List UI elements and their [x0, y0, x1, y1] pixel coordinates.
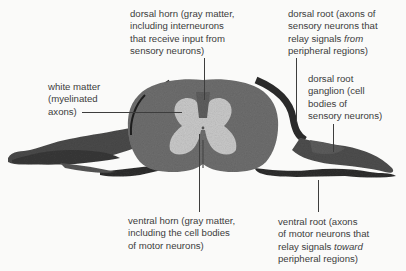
label-line: including interneurons — [130, 20, 235, 32]
leader-ventral-root — [318, 180, 319, 212]
right-nerve — [255, 138, 396, 178]
label-line: of motor neurons that — [278, 228, 369, 240]
label-line: ganglion (cell — [308, 85, 382, 97]
label-line: bodies of — [308, 98, 382, 110]
leader-dorsal-root — [296, 58, 297, 122]
label-line: ventral horn (gray matter, — [128, 215, 235, 227]
label-line: including the cell bodies — [128, 227, 235, 239]
label-ventral-root: ventral root (axons of motor neurons tha… — [278, 216, 369, 266]
leader-white-matter — [82, 112, 182, 113]
label-line: of motor neurons) — [128, 240, 235, 252]
label-line: peripheral regions) — [278, 253, 369, 265]
label-emphasis: toward — [334, 241, 363, 252]
label-line: dorsal root — [308, 73, 382, 85]
leader-dorsal-horn — [204, 58, 205, 100]
label-line: (myelinated — [48, 93, 100, 105]
label-dorsal-root-ganglion: dorsal root ganglion (cell bodies of sen… — [308, 73, 382, 123]
label-line: relay signals from — [288, 33, 378, 45]
label-line: sensory neurons) — [308, 110, 382, 122]
label-dorsal-horn: dorsal horn (gray matter, including inte… — [130, 8, 235, 58]
label-emphasis: from — [344, 33, 363, 44]
leader-dorsal-root-ganglion — [333, 124, 334, 152]
label-line: white matter — [48, 81, 100, 93]
label-line: sensory neurons) — [130, 45, 235, 57]
label-text: relay signals — [278, 241, 334, 252]
label-line: dorsal root (axons of — [288, 8, 378, 20]
leader-ventral-horn — [199, 134, 200, 212]
spinal-cord — [128, 79, 278, 172]
label-ventral-horn: ventral horn (gray matter, including the… — [128, 215, 235, 252]
label-line: dorsal horn (gray matter, — [130, 8, 235, 20]
label-text: relay signals — [288, 33, 344, 44]
label-line: peripheral regions) — [288, 45, 378, 57]
label-dorsal-root: dorsal root (axons of sensory neurons th… — [288, 8, 378, 58]
label-line: relay signals toward — [278, 241, 369, 253]
label-line: ventral root (axons — [278, 216, 369, 228]
label-line: sensory neurons that — [288, 20, 378, 32]
label-line: that receive input from — [130, 33, 235, 45]
